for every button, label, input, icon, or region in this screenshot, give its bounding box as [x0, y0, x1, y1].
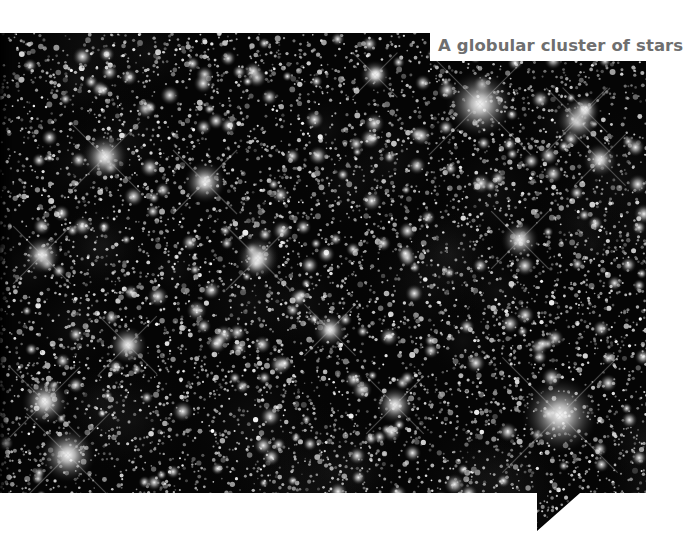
caption-box: A globular cluster of stars [430, 30, 689, 61]
globular-cluster-photo [0, 0, 689, 547]
caption-text: A globular cluster of stars [438, 36, 683, 55]
star-cluster-figure: A globular cluster of stars [0, 0, 689, 547]
